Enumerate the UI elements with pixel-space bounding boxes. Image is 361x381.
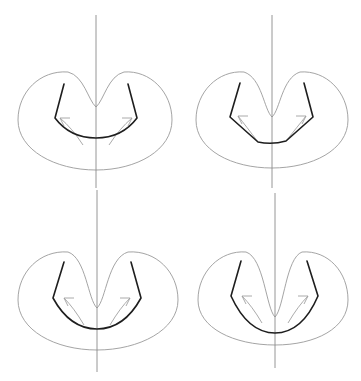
inner-contour xyxy=(230,83,313,143)
left-arrow-icon xyxy=(238,116,258,142)
right-arrow-icon xyxy=(110,298,130,325)
inner-contour xyxy=(231,261,318,333)
bilobed-outline xyxy=(18,72,172,170)
bilobed-outline xyxy=(18,252,178,350)
diagram-panel-top-right xyxy=(196,15,348,188)
diagram-panel-bottom-right xyxy=(198,193,348,368)
diagram-panel-top-left xyxy=(18,15,172,188)
left-arrow-icon xyxy=(64,298,84,325)
diagram-canvas xyxy=(0,0,361,381)
diagram-panel-bottom-left xyxy=(18,190,178,372)
right-arrow-icon xyxy=(286,116,306,141)
bilobed-outline xyxy=(198,252,348,345)
